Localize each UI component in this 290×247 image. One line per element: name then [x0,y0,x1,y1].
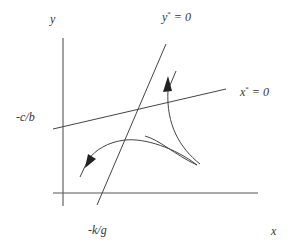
x-nullcline-label: x* = 0 [240,86,269,98]
x-intercept-text: -k/g [88,223,107,237]
x-nullcline-eq: = 0 [249,85,269,99]
x-axis-label-text: x [271,224,276,238]
y-nullcline [97,44,166,205]
x-axis-label: x [271,225,276,237]
y-intercept-text: -c/b [16,110,35,124]
x-intercept-label: -k/g [88,224,107,236]
y-axis-label: y [50,13,55,25]
y-intercept-label: -c/b [16,111,35,123]
phase-diagram [0,0,290,247]
y-nullcline-eq: = 0 [171,10,191,24]
trajectory-lower [80,140,197,177]
x-nullcline [53,89,226,129]
trajectory-cusp-strand [145,136,197,165]
y-axis-label-text: y [50,12,55,26]
y-nullcline-label: y* = 0 [162,11,191,23]
arrowhead-down-left-icon [85,154,96,168]
